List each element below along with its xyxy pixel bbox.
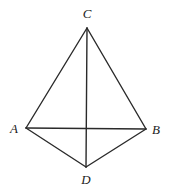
label-a: A <box>9 121 18 136</box>
label-d: D <box>80 172 91 187</box>
geometry-diagram: A B C D <box>0 0 169 188</box>
segment-ac <box>26 28 87 128</box>
label-c: C <box>83 6 92 21</box>
segment-cd <box>86 28 87 167</box>
label-b: B <box>152 122 160 137</box>
segment-ad <box>26 128 86 167</box>
segment-cb <box>87 28 146 129</box>
segment-db <box>86 129 146 167</box>
edges <box>26 28 146 167</box>
